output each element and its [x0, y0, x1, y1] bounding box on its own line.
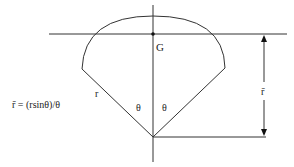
angle-label-right: θ: [162, 102, 167, 113]
distance-label: r̄: [261, 86, 265, 97]
radius-label: r: [95, 88, 99, 99]
formula-label: r̄ = (rsinθ)/θ: [12, 99, 60, 111]
centroid-label: G: [156, 41, 164, 53]
angle-label-left: θ: [136, 102, 141, 113]
diagram-labels: G r θ θ r̄ r̄ = (rsinθ)/θ: [0, 0, 294, 167]
